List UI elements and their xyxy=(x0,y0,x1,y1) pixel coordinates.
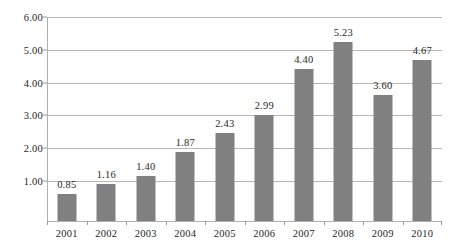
bar-value-label: 0.85 xyxy=(57,179,76,190)
y-axis-tick-label: 5.00 xyxy=(24,45,43,56)
x-axis-tick-mark xyxy=(126,221,127,225)
y-axis-tick-label: 4.00 xyxy=(24,78,43,89)
bars-layer: 0.85 2001 1.16 2002 1.40 2003 1.87 2004 … xyxy=(47,0,442,252)
x-axis-tick-mark xyxy=(284,221,285,225)
bar-group-2001: 0.85 2001 xyxy=(47,0,87,252)
x-axis-tick-label: 2003 xyxy=(135,228,157,239)
x-axis-tick-mark xyxy=(245,221,246,225)
bar-group-2006: 2.99 2006 xyxy=(245,0,285,252)
bar-value-label: 3.60 xyxy=(373,80,392,91)
bar-value-label: 4.67 xyxy=(413,45,432,56)
bar-group-2007: 4.40 2007 xyxy=(284,0,324,252)
bar-value-label: 1.16 xyxy=(97,169,116,180)
bar-value-label: 2.99 xyxy=(255,100,274,111)
bar xyxy=(294,69,313,222)
y-axis-tick-label: 3.00 xyxy=(24,110,43,121)
x-axis-tick-label: 2009 xyxy=(372,228,394,239)
bar-value-label: 1.40 xyxy=(136,161,155,172)
x-axis-tick-label: 2002 xyxy=(95,228,117,239)
x-axis-tick-mark xyxy=(166,221,167,225)
bar xyxy=(136,176,155,221)
x-axis-tick-label: 2007 xyxy=(293,228,315,239)
bar-group-2009: 3.60 2009 xyxy=(363,0,403,252)
x-axis-tick-label: 2010 xyxy=(411,228,433,239)
bar-value-label: 2.43 xyxy=(215,118,234,129)
x-axis-tick-label: 2005 xyxy=(214,228,236,239)
bar-chart: 6.00 5.00 4.00 3.00 2.00 1.00 0.85 2001 … xyxy=(0,0,460,252)
x-axis-tick-mark xyxy=(441,221,442,225)
bar xyxy=(97,184,116,221)
bar-value-label: 1.87 xyxy=(176,137,195,148)
y-axis-tick-label: 2.00 xyxy=(24,143,43,154)
x-axis-tick-mark xyxy=(363,221,364,225)
bar xyxy=(57,194,76,221)
bar-group-2010: 4.67 2010 xyxy=(403,0,443,252)
x-axis-tick-mark xyxy=(47,221,48,225)
bar-value-label: 5.23 xyxy=(334,27,353,38)
bar xyxy=(255,115,274,221)
x-axis-tick-mark xyxy=(87,221,88,225)
bar xyxy=(176,152,195,221)
x-axis-tick-label: 2004 xyxy=(174,228,196,239)
bar-value-label: 4.40 xyxy=(294,54,313,65)
bar xyxy=(413,60,432,221)
bar xyxy=(334,42,353,221)
x-axis-tick-mark xyxy=(205,221,206,225)
y-axis-labels: 6.00 5.00 4.00 3.00 2.00 1.00 xyxy=(0,0,43,252)
bar-group-2004: 1.87 2004 xyxy=(166,0,206,252)
bar-group-2002: 1.16 2002 xyxy=(87,0,127,252)
x-axis-tick-mark xyxy=(403,221,404,225)
y-axis-tick-label: 1.00 xyxy=(24,176,43,187)
x-axis-tick-label: 2006 xyxy=(253,228,275,239)
bar-group-2005: 2.43 2005 xyxy=(205,0,245,252)
x-axis-tick-label: 2008 xyxy=(332,228,354,239)
bar xyxy=(373,95,392,221)
bar xyxy=(215,133,234,221)
x-axis-tick-label: 2001 xyxy=(56,228,78,239)
y-axis-tick-label: 6.00 xyxy=(24,12,43,23)
bar-group-2008: 5.23 2008 xyxy=(324,0,364,252)
bar-group-2003: 1.40 2003 xyxy=(126,0,166,252)
x-axis-tick-mark xyxy=(324,221,325,225)
